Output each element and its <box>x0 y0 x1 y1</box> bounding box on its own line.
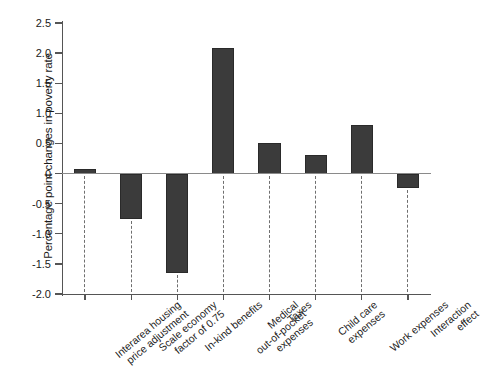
y-axis-tick-label: 0.5 <box>36 137 51 149</box>
leader-line <box>269 176 270 292</box>
x-axis-tick <box>315 294 316 300</box>
x-axis-tick <box>361 294 362 300</box>
y-axis-tick <box>55 293 62 294</box>
x-axis-tick <box>223 294 224 300</box>
y-axis-tick-label: 2.0 <box>36 47 51 59</box>
bar <box>212 48 234 174</box>
x-axis-tick <box>407 294 408 300</box>
y-axis-tick-label: -1.5 <box>32 258 51 270</box>
y-axis-tick-label: -2.0 <box>32 288 51 300</box>
y-axis-tick <box>55 113 62 114</box>
y-axis-tick-label: 2.5 <box>36 17 51 29</box>
leader-line <box>315 176 316 292</box>
leader-line <box>177 275 178 292</box>
bar <box>166 174 188 273</box>
y-axis-tick <box>55 203 62 204</box>
y-axis-tick <box>55 233 62 234</box>
y-axis-tick <box>55 22 62 23</box>
leader-line <box>131 221 132 292</box>
y-axis-tick <box>55 83 62 84</box>
y-axis-tick-label: 0 <box>45 168 51 180</box>
bar <box>120 174 142 219</box>
x-axis-label: Child care expenses <box>336 299 387 347</box>
y-axis-tick <box>55 143 62 144</box>
x-axis-tick <box>269 294 270 300</box>
bar <box>397 174 419 188</box>
x-axis-tick <box>177 294 178 300</box>
x-axis-tick <box>84 294 85 300</box>
x-axis-line <box>62 294 431 295</box>
y-axis-tick-label: 1.0 <box>36 107 51 119</box>
leader-line <box>407 190 408 292</box>
y-axis-tick-label: 1.5 <box>36 77 51 89</box>
y-axis-tick <box>55 263 62 264</box>
bar <box>305 155 327 173</box>
y-axis-tick-label: -0.5 <box>32 198 51 210</box>
x-axis-tick <box>131 294 132 300</box>
bar <box>258 143 280 174</box>
y-axis-tick <box>55 52 62 53</box>
bar <box>351 125 373 174</box>
y-axis-line <box>62 21 63 296</box>
y-axis-title: Percentage point changes in poverty rate <box>42 26 54 286</box>
y-axis-tick-label: -1.0 <box>32 228 51 240</box>
leader-line <box>84 176 85 292</box>
leader-line <box>223 176 224 292</box>
zero-baseline <box>62 173 431 174</box>
y-axis-tick <box>55 173 62 174</box>
leader-line <box>361 176 362 292</box>
